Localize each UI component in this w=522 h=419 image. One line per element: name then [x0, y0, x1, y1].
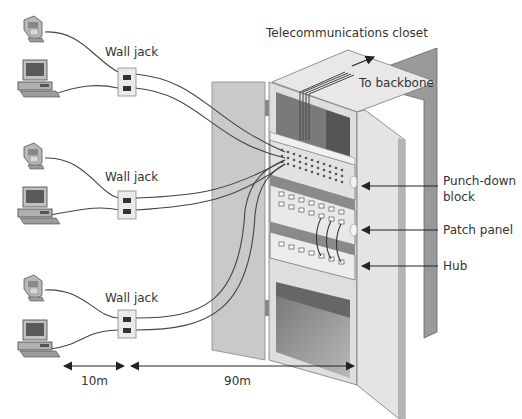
telecommunications-closet: [212, 48, 437, 419]
computer-icon: [18, 320, 60, 357]
distance-90m-label: 90m: [224, 374, 251, 388]
workstation-3: [18, 275, 136, 357]
telephone-icon: [24, 143, 44, 169]
hub-label: Hub: [443, 259, 467, 273]
telephone-icon: [24, 275, 44, 301]
distance-10m-label: 10m: [81, 374, 108, 388]
computer-icon: [18, 187, 60, 224]
wall-jack-label-3: Wall jack: [105, 291, 158, 305]
wall-jack-icon: [118, 310, 136, 338]
computer-icon: [18, 60, 60, 97]
backbone-label: To backbone: [359, 76, 434, 90]
patch-panel-label: Patch panel: [443, 223, 513, 237]
punch-down-label-line2: block: [443, 190, 475, 204]
wall-jack-icon: [118, 68, 136, 96]
network-diagram: [0, 0, 522, 419]
closet-title: Telecommunications closet: [266, 26, 428, 40]
punch-down-label-line1: Punch-down: [443, 174, 516, 188]
wall-jack-label-2: Wall jack: [105, 170, 158, 184]
wall-jack-icon: [118, 191, 136, 219]
telephone-icon: [24, 16, 44, 42]
wall-jack-label-1: Wall jack: [105, 45, 158, 59]
